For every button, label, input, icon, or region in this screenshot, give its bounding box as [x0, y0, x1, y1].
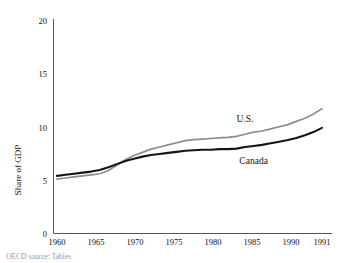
x-tick-label-1970: 1970	[127, 237, 144, 247]
x-tick-label-1975: 1975	[166, 237, 183, 247]
series-annotation-canada: Canada	[239, 156, 268, 166]
x-tick-label-1990: 1990	[283, 237, 300, 247]
chart-background	[0, 0, 340, 263]
series-annotation-us: U.S.	[237, 114, 254, 124]
y-tick-label-0: 0	[43, 229, 47, 239]
x-tick-label-1960: 1960	[49, 237, 66, 247]
x-tick-label-1985: 1985	[244, 237, 261, 247]
y-tick-label-20: 20	[39, 16, 48, 26]
y-axis-title: Share of GDP	[13, 145, 23, 196]
source-note: OECD source: Tables	[6, 252, 71, 261]
y-tick-label-15: 15	[39, 69, 48, 79]
x-tick-label-1991: 1991	[314, 237, 331, 247]
x-tick-label-1965: 1965	[88, 237, 105, 247]
y-tick-label-10: 10	[39, 123, 48, 133]
y-tick-label-5: 5	[43, 176, 47, 186]
line-chart-figure: 0 5 10 15 20 Share of GDP 1960 1965 1970…	[0, 0, 340, 263]
x-tick-label-1980: 1980	[205, 237, 222, 247]
chart-svg: 0 5 10 15 20 Share of GDP 1960 1965 1970…	[0, 0, 340, 263]
